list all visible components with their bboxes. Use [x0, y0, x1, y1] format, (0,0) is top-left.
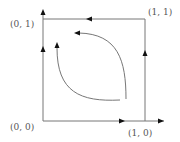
arrow-up-icon	[55, 42, 60, 48]
outer-curve	[79, 33, 126, 99]
inner-curve	[57, 48, 120, 100]
label-top-right: (1, 1)	[148, 7, 172, 17]
arrow-right-icon	[119, 119, 125, 124]
arrow-up-icon	[41, 46, 46, 52]
arrow-up-icon	[41, 9, 46, 15]
label-bottom-right: (1, 0)	[128, 128, 152, 138]
arrow-left-icon	[74, 31, 80, 36]
arrow-left-icon	[86, 17, 92, 22]
label-top-left: (0, 1)	[10, 19, 34, 29]
phase-diagram: (0, 1) (1, 1) (0, 0) (1, 0)	[0, 0, 180, 142]
arrow-right-icon	[158, 119, 164, 124]
label-origin: (0, 0)	[10, 122, 34, 132]
arrow-up-icon	[143, 50, 148, 56]
